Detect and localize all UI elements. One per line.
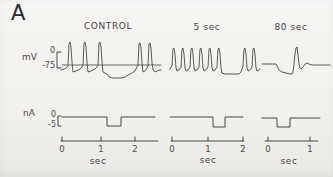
current-unit-label: nA <box>23 109 35 118</box>
time-axis-5sec <box>171 137 244 141</box>
control-time-axis <box>61 137 158 141</box>
na-control-trace <box>62 117 155 126</box>
control-axis-tick-1: 1 <box>98 145 103 154</box>
control-axis-unit: sec <box>90 157 107 166</box>
mv-trace-80sec <box>262 47 330 74</box>
mv-scale-bracket <box>57 52 61 68</box>
axis-5sec-tick-2: 2 <box>240 145 245 154</box>
voltage-scale-bottom: -75 <box>42 62 55 70</box>
axis-80sec-tick-1: 1 <box>307 145 312 154</box>
axis-80sec-tick-0: 0 <box>265 145 270 154</box>
column-header-80sec: 80 sec <box>274 23 307 32</box>
figure-panel-a: A CONTROL 5 sec 80 sec mV 0 -75 nA 0 -5 … <box>0 0 333 177</box>
axis-5sec-tick-0: 0 <box>169 145 174 154</box>
mv-trace-5sec <box>170 48 260 74</box>
axis-80sec-unit: sec <box>281 157 298 166</box>
voltage-scale-top: 0 <box>50 47 55 55</box>
axis-5sec-tick-1: 1 <box>205 145 210 154</box>
na-trace-5sec <box>170 117 243 127</box>
panel-label: A <box>11 3 26 24</box>
control-mv-trace <box>61 42 161 78</box>
axis-5sec-unit: sec <box>200 156 217 165</box>
control-axis-tick-2: 2 <box>132 145 137 154</box>
voltage-unit-label: mV <box>22 53 37 62</box>
current-scale-top: 0 <box>51 111 56 119</box>
control-axis-tick-0: 0 <box>59 145 64 154</box>
time-axis-80sec <box>265 137 318 141</box>
current-scale-bottom: -5 <box>48 121 56 129</box>
column-header-5sec: 5 sec <box>194 23 221 32</box>
column-header-control: CONTROL <box>84 22 132 31</box>
na-scale-bracket <box>58 116 61 126</box>
na-trace-80sec <box>262 118 320 127</box>
